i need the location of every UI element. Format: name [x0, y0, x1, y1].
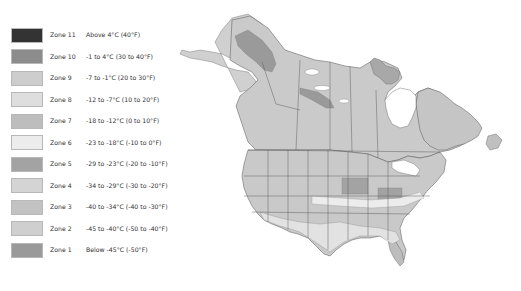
zone-7-swatch: [11, 114, 43, 129]
zone-label: Zone 7: [50, 117, 90, 124]
legend-item-zone-7: Zone 7 -18 to -12°C (0 to 10°F): [11, 113, 43, 129]
north-america-map-graphic: [150, 0, 521, 291]
zone-5-swatch: [11, 157, 43, 172]
zone-2-swatch: [11, 221, 43, 236]
zone-4-swatch: [11, 178, 43, 193]
zone-label: Zone 8: [50, 96, 90, 103]
zone-range: -12 to -7°C (10 to 20°F): [86, 96, 159, 103]
hardiness-zone-map: [150, 0, 521, 291]
zone-10-swatch: [11, 49, 43, 64]
zone-label: Zone 11: [50, 31, 90, 38]
legend-item-zone-8: Zone 8 -12 to -7°C (10 to 20°F): [11, 92, 43, 108]
zone-label: Zone 1: [50, 246, 90, 253]
zone-range: -7 to -1°C (20 to 30°F): [86, 74, 155, 81]
zone-11-swatch: [11, 28, 43, 43]
zone-9-swatch: [11, 71, 43, 86]
great-slave-lake: [314, 86, 330, 91]
zone-label: Zone 9: [50, 74, 90, 81]
legend-item-zone-10: Zone 10 -1 to 4°C (30 to 40°F): [11, 49, 43, 65]
zone-label: Zone 6: [50, 139, 90, 146]
zone-label: Zone 10: [50, 53, 90, 60]
zone-label: Zone 4: [50, 182, 90, 189]
legend-item-zone-2: Zone 2 -45 to -40°C (-50 to -40°F): [11, 221, 43, 237]
quebec-labrador-region: [416, 88, 482, 150]
zone-range: Below -45°C (-50°F): [86, 246, 148, 253]
zone-5-patch-plains: [342, 178, 368, 194]
legend-item-zone-3: Zone 3 -40 to -34°C (-40 to -30°F): [11, 199, 43, 215]
zone-label: Zone 3: [50, 203, 90, 210]
legend-item-zone-11: Zone 11 Above 4°C (40°F): [11, 27, 43, 43]
zone-3-swatch: [11, 200, 43, 215]
lake-athabasca: [339, 99, 349, 103]
zone-range: Above 4°C (40°F): [86, 31, 140, 38]
zone-6-swatch: [11, 135, 43, 150]
legend-item-zone-4: Zone 4 -34 to -29°C (-30 to -20°F): [11, 178, 43, 194]
zone-1-swatch: [11, 243, 43, 258]
zone-range: -1 to 4°C (30 to 40°F): [86, 53, 153, 60]
zone-8-swatch: [11, 92, 43, 107]
legend-item-zone-6: Zone 6 -23 to -18°C (-10 to 0°F): [11, 135, 43, 151]
zone-label: Zone 5: [50, 160, 90, 167]
legend-item-zone-1: Zone 1 Below -45°C (-50°F): [11, 242, 43, 258]
zone-label: Zone 2: [50, 225, 90, 232]
newfoundland: [486, 134, 502, 150]
legend-item-zone-5: Zone 5 -29 to -23°C (-20 to -10°F): [11, 156, 43, 172]
legend-item-zone-9: Zone 9 -7 to -1°C (20 to 30°F): [11, 70, 43, 86]
great-bear-lake: [305, 69, 319, 75]
zone-range: -18 to -12°C (0 to 10°F): [86, 117, 159, 124]
